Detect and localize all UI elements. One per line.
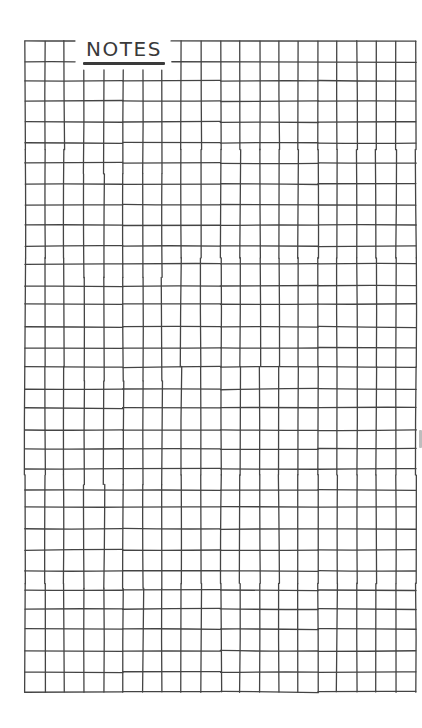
grid-row-line xyxy=(25,122,122,123)
grid-row-line xyxy=(221,367,319,368)
grid-column-line xyxy=(162,381,163,485)
grid-row-line xyxy=(221,184,318,185)
grid-right-border xyxy=(415,149,416,257)
grid-row-line xyxy=(221,590,319,591)
title-underline xyxy=(83,62,165,65)
grid-row-line xyxy=(319,672,416,673)
grid-column-line xyxy=(104,484,105,588)
grid-row-line xyxy=(318,246,416,247)
notes-page: NOTES xyxy=(0,0,422,728)
grid-column-line xyxy=(357,41,358,150)
grid-row-line xyxy=(172,62,416,63)
grid-column-line xyxy=(220,475,221,584)
grid-row-line xyxy=(318,389,416,390)
grid-row-line xyxy=(221,571,319,572)
grid-column-line xyxy=(376,366,377,474)
grid-column-line xyxy=(375,149,376,258)
graph-paper-grid xyxy=(0,0,422,728)
grid-column-line xyxy=(123,381,124,485)
grid-row-line xyxy=(318,490,416,491)
grid-row-line xyxy=(25,246,123,247)
grid-column-line xyxy=(64,583,65,691)
grid-row-line xyxy=(25,408,123,409)
grid-right-border xyxy=(415,367,416,475)
grid-row-line xyxy=(318,469,416,470)
grid-column-line xyxy=(161,277,162,380)
grid-column-line xyxy=(220,149,221,257)
grid-row-line xyxy=(318,609,416,610)
grid-column-line xyxy=(298,150,299,259)
grid-row-line xyxy=(220,609,318,610)
grid-column-line xyxy=(201,583,202,692)
grid-row-line xyxy=(25,304,123,305)
grid-column-line xyxy=(123,485,124,589)
grid-row-line xyxy=(221,101,319,102)
grid-column-line xyxy=(143,588,144,692)
grid-row-line xyxy=(25,162,123,163)
grid-column-line xyxy=(357,258,358,367)
grid-column-line xyxy=(278,475,279,584)
grid-row-line xyxy=(318,651,415,652)
grid-column-line xyxy=(123,277,124,381)
grid-column-line xyxy=(123,589,124,693)
grid-row-line xyxy=(123,204,221,205)
grid-row-line xyxy=(123,366,220,367)
grid-row-line xyxy=(25,327,123,328)
grid-row-line xyxy=(220,650,318,651)
grid-row-line xyxy=(25,549,123,550)
grid-column-line xyxy=(180,258,181,367)
grid-column-line xyxy=(376,475,377,584)
grid-row-line xyxy=(318,571,415,572)
grid-row-line xyxy=(318,81,415,82)
grid-left-border xyxy=(25,41,26,149)
grid-row-line xyxy=(123,528,220,529)
grid-column-line xyxy=(396,150,397,258)
grid-column-line xyxy=(240,150,241,258)
grid-row-line xyxy=(25,143,123,144)
grid-column-line xyxy=(64,41,65,150)
grid-row-line xyxy=(319,590,416,591)
grid-left-border xyxy=(25,258,26,366)
grid-column-line xyxy=(45,367,46,475)
grid-row-line xyxy=(25,100,123,101)
grid-row-line xyxy=(221,629,319,630)
grid-row-line xyxy=(318,430,416,431)
grid-row-line xyxy=(25,286,123,287)
grid-row-line xyxy=(318,367,416,368)
grid-left-border xyxy=(25,583,26,692)
page-title: NOTES xyxy=(80,40,168,59)
grid-row-line xyxy=(221,507,319,508)
grid-column-line xyxy=(279,41,280,149)
grid-column-line xyxy=(336,583,337,691)
grid-column-line xyxy=(318,583,319,692)
grid-row-line xyxy=(318,629,416,630)
grid-row-line xyxy=(221,388,319,389)
grid-column-line xyxy=(221,583,222,691)
grid-right-border xyxy=(416,583,417,692)
grid-row-line xyxy=(123,608,221,609)
grid-row-line xyxy=(123,121,221,122)
grid-column-line xyxy=(240,584,241,692)
grid-row-line xyxy=(123,629,221,630)
grid-column-line xyxy=(181,366,182,474)
grid-row-line xyxy=(220,430,318,431)
title-block: NOTES xyxy=(80,39,168,69)
grid-bottom-border xyxy=(220,691,318,692)
grid-row-line xyxy=(318,326,416,327)
grid-column-line xyxy=(83,70,84,173)
